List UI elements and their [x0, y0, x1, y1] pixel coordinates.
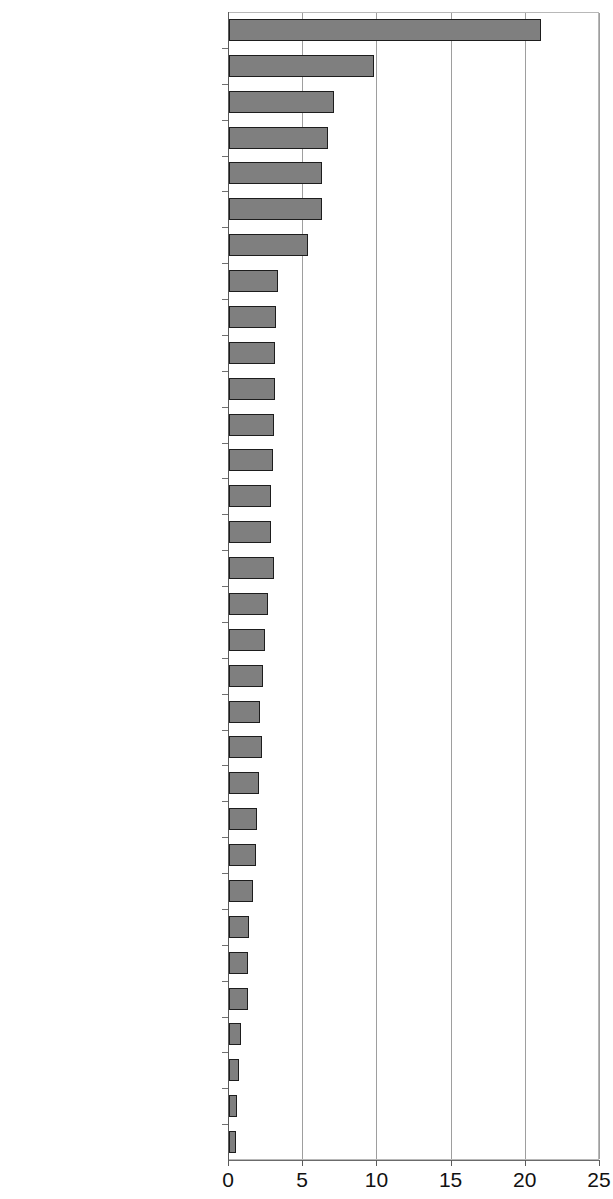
- y-tick-12: [222, 443, 228, 444]
- bar: [229, 916, 249, 938]
- gridline-x-15: [451, 13, 452, 1159]
- bar: [229, 988, 248, 1010]
- y-tick-11: [222, 407, 228, 408]
- bar: [229, 127, 328, 149]
- bar: [229, 342, 275, 364]
- bar: [229, 629, 265, 651]
- y-tick-18: [222, 658, 228, 659]
- bar: [229, 270, 278, 292]
- y-tick-21: [222, 765, 228, 766]
- y-tick-1: [222, 48, 228, 49]
- y-tick-29: [222, 1052, 228, 1053]
- bar: [229, 19, 541, 41]
- bar: [229, 880, 253, 902]
- y-tick-14: [222, 514, 228, 515]
- bar-chart: 0510152025 FifeEdinburghHighlandsScottis…: [0, 0, 613, 1199]
- bar: [229, 1059, 239, 1081]
- bar: [229, 414, 274, 436]
- bar: [229, 952, 248, 974]
- bar: [229, 162, 322, 184]
- y-tick-17: [222, 622, 228, 623]
- y-tick-2: [222, 84, 228, 85]
- bar: [229, 665, 263, 687]
- y-tick-27: [222, 981, 228, 982]
- y-tick-25: [222, 909, 228, 910]
- y-tick-9: [222, 335, 228, 336]
- y-tick-24: [222, 873, 228, 874]
- y-tick-20: [222, 730, 228, 731]
- x-tick-label-0: 0: [222, 1168, 234, 1192]
- gridline-x-5: [302, 13, 303, 1159]
- bar: [229, 557, 274, 579]
- y-tick-19: [222, 694, 228, 695]
- bar: [229, 306, 276, 328]
- y-tick-22: [222, 801, 228, 802]
- bar: [229, 1023, 241, 1045]
- bar: [229, 772, 259, 794]
- bar: [229, 1131, 236, 1153]
- bar: [229, 593, 268, 615]
- y-tick-7: [222, 263, 228, 264]
- bar: [229, 55, 374, 77]
- y-tick-26: [222, 945, 228, 946]
- y-tick-31: [222, 1124, 228, 1125]
- y-tick-28: [222, 1017, 228, 1018]
- x-tick-0: [228, 1160, 229, 1166]
- y-tick-4: [222, 156, 228, 157]
- x-tick-5: [302, 1160, 303, 1166]
- y-tick-23: [222, 837, 228, 838]
- y-tick-16: [222, 586, 228, 587]
- gridline-x-25: [599, 13, 600, 1159]
- x-tick-25: [599, 1160, 600, 1166]
- x-tick-10: [376, 1160, 377, 1166]
- bar: [229, 808, 257, 830]
- bar: [229, 701, 260, 723]
- bar: [229, 91, 334, 113]
- y-tick-6: [222, 227, 228, 228]
- y-tick-3: [222, 120, 228, 121]
- bar: [229, 1095, 237, 1117]
- y-tick-5: [222, 191, 228, 192]
- gridline-x-10: [376, 13, 377, 1159]
- x-tick-label-5: 5: [296, 1168, 308, 1192]
- x-tick-label-15: 15: [439, 1168, 462, 1192]
- bar: [229, 485, 271, 507]
- cropped-title-fragment: [12, 0, 192, 1]
- y-tick-10: [222, 371, 228, 372]
- bar: [229, 736, 262, 758]
- y-tick-13: [222, 478, 228, 479]
- bar: [229, 234, 308, 256]
- bar: [229, 844, 256, 866]
- bar: [229, 449, 273, 471]
- y-tick-15: [222, 550, 228, 551]
- y-tick-8: [222, 299, 228, 300]
- gridline-x-20: [525, 13, 526, 1159]
- y-tick-30: [222, 1088, 228, 1089]
- x-tick-label-20: 20: [513, 1168, 536, 1192]
- x-tick-label-10: 10: [365, 1168, 388, 1192]
- x-tick-15: [451, 1160, 452, 1166]
- bar: [229, 198, 322, 220]
- x-tick-20: [525, 1160, 526, 1166]
- bar: [229, 378, 275, 400]
- bar: [229, 521, 271, 543]
- x-axis-line: [228, 1160, 599, 1161]
- x-tick-label-25: 25: [587, 1168, 610, 1192]
